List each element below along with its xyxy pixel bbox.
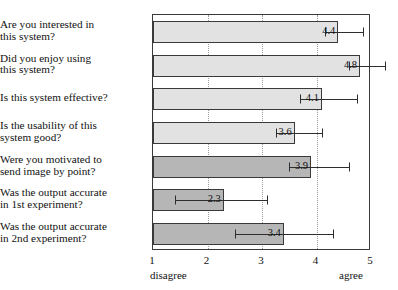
bar-value-label: 4.1 (306, 93, 322, 104)
bar-value-label: 4.8 (344, 59, 360, 70)
survey-bar-chart: Are you interested inthis system?Did you… (0, 0, 398, 290)
category-label: Is the usability of thissystem good? (0, 120, 144, 144)
plot-area: 4.44.84.13.63.92.33.4 (152, 14, 370, 250)
x-tick-label-3: 3 (258, 255, 264, 266)
error-cap-low (175, 196, 176, 205)
error-cap-high (363, 27, 364, 36)
x-tick-label-1: 1 (149, 255, 155, 266)
category-label-line: this system? (0, 31, 144, 43)
error-bar (235, 234, 333, 235)
bar-value-label: 3.4 (268, 228, 284, 239)
error-cap-high (267, 196, 268, 205)
category-label-column: Are you interested inthis system?Did you… (0, 0, 150, 290)
category-label-line: Were you motivated to (0, 154, 144, 166)
error-cap-high (333, 230, 334, 239)
bar-value-label: 3.6 (279, 127, 295, 138)
category-label-line: Is this system effective? (0, 92, 144, 104)
error-cap-low (289, 162, 290, 171)
bar (153, 156, 311, 178)
x-tick-label-5: 5 (367, 255, 373, 266)
error-cap-high (322, 129, 323, 138)
category-label-line: system good? (0, 132, 144, 144)
category-label: Were you motivated tosend image by point… (0, 154, 144, 178)
x-tick-label-4: 4 (313, 255, 319, 266)
error-cap-high (357, 95, 358, 104)
bar-value-label: 2.3 (208, 194, 224, 205)
error-cap-high (385, 61, 386, 70)
error-cap-low (300, 95, 301, 104)
category-label-line: send image by point? (0, 166, 144, 178)
bar-value-label: 4.4 (322, 26, 338, 37)
category-label: Was the output accuratein 2nd experiment… (0, 221, 144, 245)
bar-value-label: 3.9 (295, 160, 311, 171)
category-label: Was the output accuratein 1st experiment… (0, 187, 144, 211)
bar (153, 21, 338, 43)
error-cap-high (349, 162, 350, 171)
category-label-line: Are you interested in (0, 19, 144, 31)
scale-anchor-agree: agree (339, 270, 363, 281)
bar-row (153, 55, 369, 77)
category-label-line: in 1st experiment? (0, 199, 144, 211)
bar (153, 88, 322, 110)
category-label: Are you interested inthis system? (0, 19, 144, 43)
bar (153, 122, 295, 144)
error-cap-low (235, 230, 236, 239)
category-label-line: in 2nd experiment? (0, 233, 144, 245)
category-label-line: this system? (0, 64, 144, 76)
bar-row (153, 122, 369, 144)
category-label: Is this system effective? (0, 92, 144, 104)
bar (153, 55, 360, 77)
scale-anchor-disagree: disagree (150, 270, 187, 281)
x-tick-label-2: 2 (204, 255, 210, 266)
error-cap-low (276, 129, 277, 138)
category-label: Did you enjoy usingthis system? (0, 53, 144, 77)
